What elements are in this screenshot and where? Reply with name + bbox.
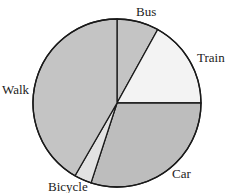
- label-train: Train: [197, 51, 225, 64]
- pie-chart: [0, 0, 228, 193]
- label-car: Car: [172, 167, 191, 180]
- label-bicycle: Bicycle: [48, 180, 88, 193]
- label-walk: Walk: [2, 83, 29, 96]
- label-bus: Bus: [136, 5, 156, 18]
